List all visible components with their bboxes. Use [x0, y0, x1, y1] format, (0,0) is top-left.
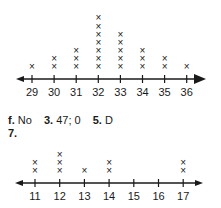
x-mark: ×	[180, 157, 186, 168]
arrow-right-icon	[195, 180, 203, 186]
tick-label: 13	[78, 190, 90, 202]
tick-label: 15	[128, 190, 140, 202]
tick-label: 14	[103, 190, 115, 202]
x-mark: ×	[81, 165, 87, 176]
arrow-left-icon	[15, 180, 23, 186]
x-mark: ×	[106, 157, 112, 168]
x-mark: ×	[32, 157, 38, 168]
tick-label: 17	[177, 190, 189, 202]
tick-label: 11	[29, 190, 40, 202]
x-mark: ×	[57, 149, 63, 160]
tick-label: 12	[54, 190, 66, 202]
tick-label: 16	[152, 190, 164, 202]
dot-plot-2: 11××12×××13×14××151617××	[0, 0, 221, 208]
